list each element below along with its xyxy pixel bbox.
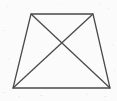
trapezoid-diagram	[0, 0, 117, 101]
figure-container	[0, 0, 117, 101]
diagram-background	[0, 0, 117, 101]
